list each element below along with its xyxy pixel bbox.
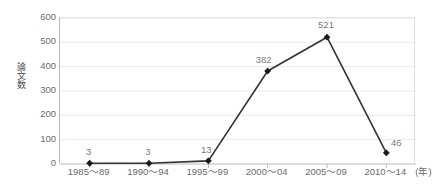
plot-area — [59, 17, 415, 163]
data-point-marker[interactable] — [383, 149, 390, 156]
y-axis-tick-label: 100 — [26, 134, 56, 144]
y-axis-tick-label: 400 — [26, 61, 56, 71]
y-axis-tick-label: 600 — [26, 12, 56, 22]
data-point-marker[interactable] — [324, 34, 331, 41]
line-chart: 論文数 6005004003002001000 1985～891990～9419… — [0, 0, 447, 191]
x-axis-unit-label: (年) — [415, 166, 441, 178]
x-axis-tick-label: 1995～99 — [178, 166, 236, 178]
x-axis-tick-labels: 1985～891990～941995～992000～042005～092010～… — [59, 166, 447, 182]
x-axis-tick-label: 1985～89 — [60, 166, 118, 178]
y-axis-tick-label: 0 — [26, 158, 56, 168]
x-axis-tick-label: 2000～04 — [238, 166, 296, 178]
x-axis-tick-label: 2010～14 — [356, 166, 414, 178]
y-axis-tick-label: 300 — [26, 85, 56, 95]
y-axis-tick-label: 200 — [26, 109, 56, 119]
x-axis-tick-label: 1990～94 — [119, 166, 177, 178]
y-axis-tick-label: 500 — [26, 36, 56, 46]
plot-series-svg — [60, 18, 416, 164]
y-axis-tick-labels: 6005004003002001000 — [24, 0, 56, 191]
series-line — [90, 37, 387, 163]
x-axis-tick-label: 2005～09 — [297, 166, 355, 178]
